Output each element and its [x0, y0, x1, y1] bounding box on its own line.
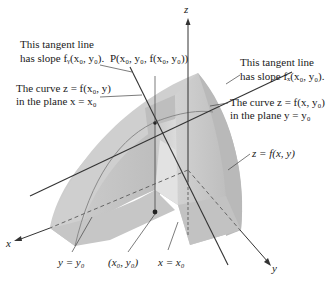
x-axis-arrowhead — [14, 236, 22, 241]
leader-curve-x0 — [100, 95, 142, 97]
diagram-canvas: z x y This tangent line has slope fᵧ(x₀,… — [0, 0, 331, 282]
plane-y0-label: y = y₀ — [57, 256, 85, 268]
callout-tangent-fx-line1: This tangent line — [240, 56, 314, 68]
leader-plane-x0 — [168, 222, 178, 250]
leader-tangent-fx — [226, 75, 240, 84]
callout-tangent-fy-line2: has slope fᵧ(x₀, y₀). — [20, 52, 104, 65]
surface-label: z = f(x, y) — [251, 147, 295, 160]
base-point — [153, 210, 158, 215]
callout-curve-x0-line1: The curve z = f(x₀, y) — [16, 82, 111, 95]
callout-curve-x0-line2: in the plane x = x₀ — [16, 95, 97, 107]
x-axis-label: x — [5, 237, 11, 249]
point-p-label: P(x₀, y₀, f(x₀, y₀)) — [110, 52, 189, 65]
callout-tangent-fy-line1: This tangent line — [20, 38, 94, 50]
base-point-label: (x₀, y₀) — [108, 256, 139, 269]
z-axis-arrowhead — [186, 18, 191, 25]
partial-derivative-diagram: z x y This tangent line has slope fᵧ(x₀,… — [0, 0, 331, 282]
callout-tangent-fx-line2: has slope fₓ(x₀, y₀). — [240, 70, 325, 83]
callout-curve-y0-line1: The curve z = f(x, y₀) — [230, 96, 325, 109]
y-axis — [240, 230, 268, 262]
y-axis-label: y — [271, 262, 277, 274]
plane-x0-label: x = x₀ — [157, 256, 185, 268]
z-axis-label: z — [183, 3, 189, 15]
x-axis — [18, 228, 50, 240]
callout-curve-y0-line2: in the plane y = y₀ — [230, 109, 311, 121]
leader-tangent-fy — [100, 65, 132, 72]
